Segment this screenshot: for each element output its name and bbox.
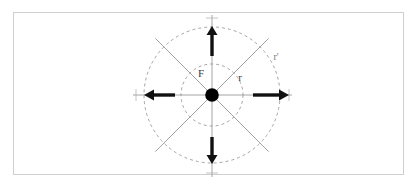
outer-radius-label: r': [273, 51, 278, 62]
radial-force-diagram: F r r': [0, 0, 420, 191]
inner-radius-label: r: [238, 71, 242, 83]
center-point-mass: [205, 88, 219, 102]
force-label: F: [198, 67, 204, 79]
figure-canvas: F r r': [0, 0, 420, 191]
